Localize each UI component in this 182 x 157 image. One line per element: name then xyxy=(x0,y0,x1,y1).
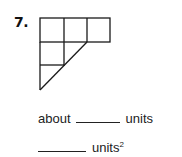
about-label: about xyxy=(38,111,71,126)
exponent: 2 xyxy=(119,140,123,149)
perimeter-answer-line: aboutunits xyxy=(38,111,153,126)
area-answer-line: units2 xyxy=(38,140,124,155)
units-label: units xyxy=(126,111,153,126)
grid-figure xyxy=(0,0,182,157)
area-blank[interactable] xyxy=(38,142,86,152)
top-row xyxy=(40,18,110,42)
perimeter-blank[interactable] xyxy=(76,113,120,123)
square-units-label: units xyxy=(92,140,119,155)
